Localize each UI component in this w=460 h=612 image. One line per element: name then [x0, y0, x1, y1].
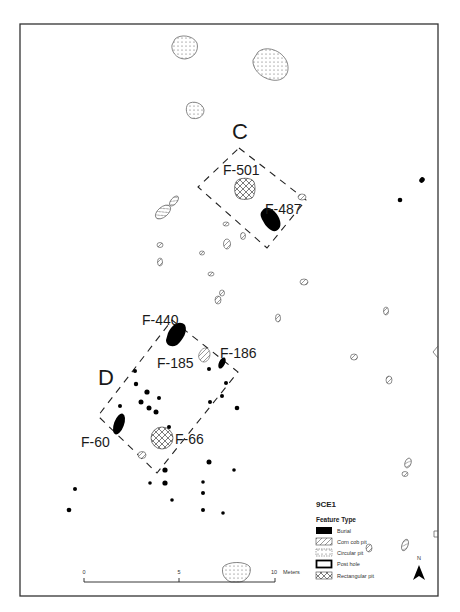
feature-label-f186: F-186	[220, 345, 257, 361]
map-frame	[20, 24, 438, 596]
north-arrow: N	[413, 555, 425, 580]
feature-label-f66: F-66	[175, 431, 204, 447]
feature-label-f501: F-501	[223, 162, 260, 178]
scale-bar: 0 5 10 Meters	[83, 569, 301, 582]
legend-swatch-corn-cob-pit	[316, 538, 332, 545]
feature-label-f60: F-60	[81, 434, 110, 450]
legend-label-post-hole: Post hole	[337, 561, 360, 567]
feature-label-f487: F-487	[265, 201, 302, 217]
scale-unit: Meters	[283, 569, 300, 575]
feature-f60-burial	[111, 412, 128, 436]
north-label: N	[417, 555, 421, 561]
legend-label-circular-pit: Circular pit	[337, 550, 364, 556]
area-c-label: C	[232, 119, 248, 144]
north-arrow-icon	[413, 565, 425, 580]
corn-cob-pits	[138, 194, 413, 552]
feature-f501-rectangular-pit	[235, 178, 255, 199]
scale-tick-5: 5	[178, 569, 181, 575]
legend-title: 9CE1	[316, 500, 337, 509]
edge-feature	[433, 346, 438, 358]
scale-tick-10: 10	[271, 569, 277, 575]
site-map: C F-501 F-487 D F-440 F-185 F-186 F-60 F…	[0, 0, 460, 612]
legend-label-burial: Burial	[337, 528, 351, 534]
feature-label-f440: F-440	[142, 312, 179, 328]
circular-pits	[172, 36, 288, 582]
legend-label-rectangular-pit: Rectangular pit	[337, 573, 374, 579]
feature-label-f185: F-185	[157, 355, 194, 371]
legend-swatch-rectangular-pit	[316, 572, 332, 579]
area-d-label: D	[98, 365, 114, 390]
legend-subtitle: Feature Type	[316, 516, 356, 524]
feature-f66-rectangular-pit	[151, 427, 173, 449]
legend: 9CE1 Feature Type Burial Corn cob pit Ci…	[316, 500, 374, 579]
scale-tick-0: 0	[83, 569, 86, 575]
feature-f185-corn-cob-pit	[199, 348, 210, 362]
legend-swatch-circular-pit	[316, 549, 332, 556]
legend-label-corn-cob-pit: Corn cob pit	[337, 539, 367, 545]
legend-swatch-post-hole	[317, 561, 332, 568]
legend-swatch-burial	[316, 527, 332, 534]
